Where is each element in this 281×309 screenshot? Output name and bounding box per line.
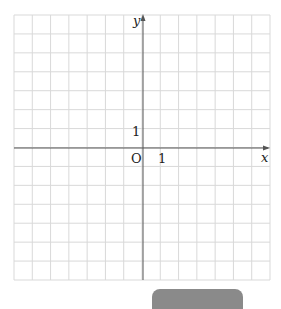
x-axis-label: x bbox=[261, 150, 269, 165]
y-unit-label: 1 bbox=[132, 124, 140, 139]
bottom-button[interactable] bbox=[152, 289, 243, 309]
origin-label: O bbox=[131, 151, 142, 166]
x-unit-label: 1 bbox=[158, 151, 166, 166]
y-axis-label: y bbox=[132, 13, 141, 28]
